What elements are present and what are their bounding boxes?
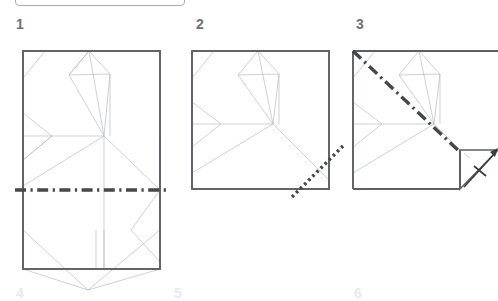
panel-1-creases — [23, 51, 160, 290]
step-number-2: 2 — [196, 17, 204, 31]
panel-2-svg — [180, 40, 355, 280]
step-number-3: 3 — [356, 17, 364, 31]
panel-step-2 — [180, 40, 355, 280]
panel-step-1 — [0, 40, 185, 280]
panel-1-paper-outline — [23, 51, 160, 269]
panel-2-creases — [192, 51, 329, 189]
panel-3-fold-line-dashdot — [353, 51, 461, 153]
step-number-6-partial: 6 — [354, 286, 362, 300]
step-number-4-partial: 4 — [16, 286, 24, 300]
panel-2-paper-outline — [192, 51, 329, 189]
panel-3-creases — [353, 51, 460, 173]
step-number-1: 1 — [16, 17, 24, 31]
panel-3-fold-arrow — [464, 148, 498, 187]
clipped-top-input-frame[interactable] — [15, 0, 185, 6]
panel-3-svg — [340, 40, 498, 280]
step-number-5-partial: 5 — [174, 286, 182, 300]
panel-step-3 — [340, 40, 498, 280]
panel-1-svg — [0, 40, 185, 280]
